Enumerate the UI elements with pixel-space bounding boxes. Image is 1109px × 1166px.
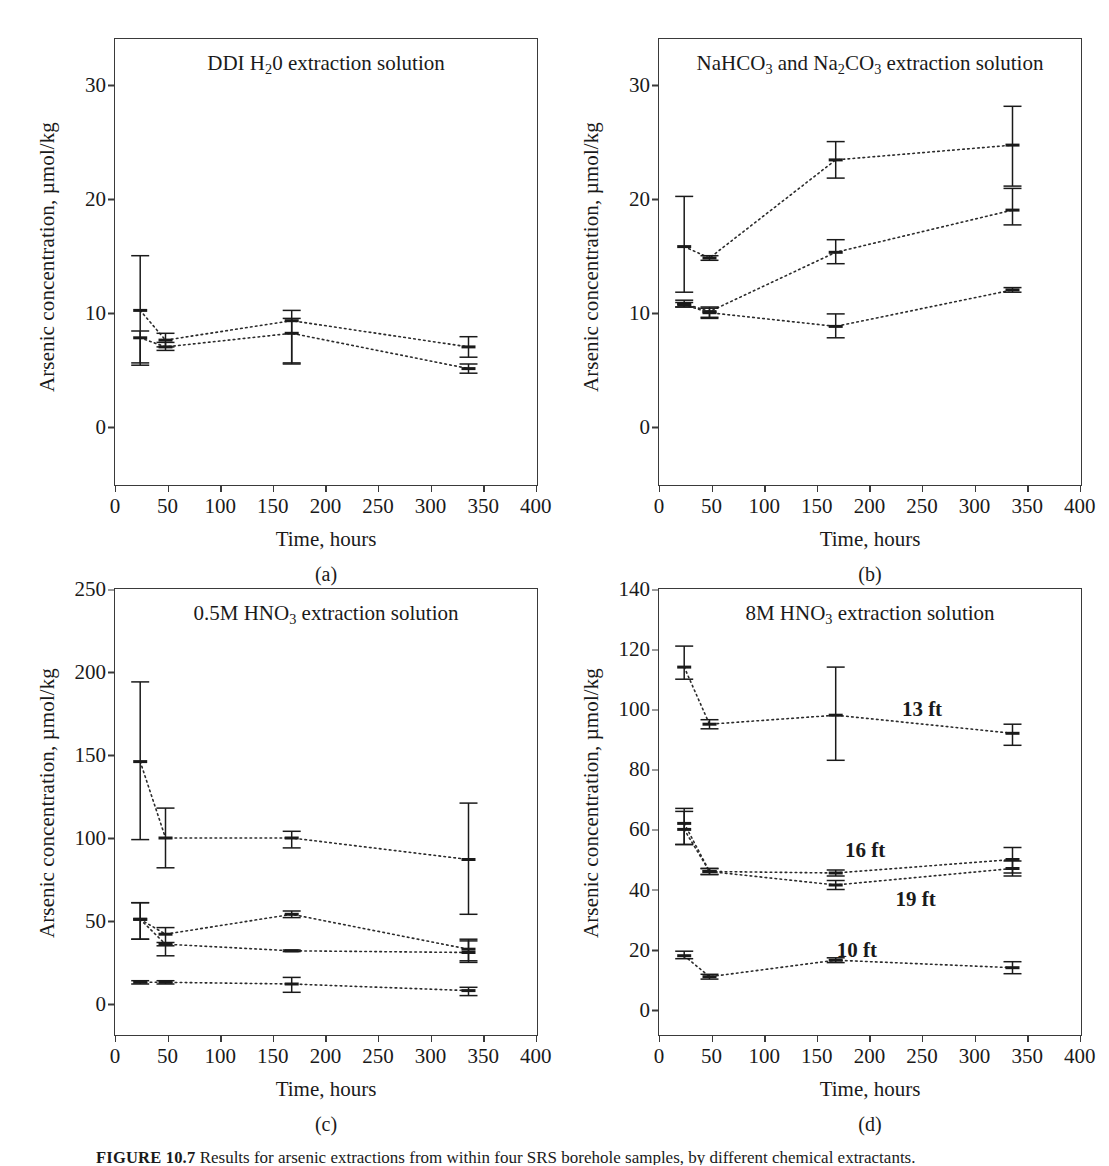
x-tick-b-4: 200 <box>839 496 899 517</box>
x-tick-b-5: 250 <box>892 496 952 517</box>
y-tick-d-4: 80 <box>590 759 650 780</box>
x-axis-label-b: Time, hours <box>659 527 1081 552</box>
x-tick-b-1: 50 <box>682 496 742 517</box>
y-axis-label-c: Arsenic concentration, µmol/kg <box>34 573 60 1033</box>
series-line <box>684 290 1012 327</box>
y-tick-b-0: 0 <box>590 416 650 437</box>
y-tick-d-5: 100 <box>590 699 650 720</box>
x-tick-c-1: 50 <box>138 1046 198 1067</box>
x-tick-d-0: 0 <box>629 1046 689 1067</box>
plot-area-a: DDI H20 extraction solution 0102030 0501… <box>114 38 538 486</box>
x-tick-c-0: 0 <box>85 1046 145 1067</box>
y-tick-d-1: 20 <box>590 939 650 960</box>
plot-area-c: 0.5M HNO3 extraction solution 0501001502… <box>114 588 538 1036</box>
data-layer-c <box>115 589 537 1035</box>
x-tick-a-5: 250 <box>348 496 408 517</box>
series-line <box>140 310 468 347</box>
x-tick-d-5: 250 <box>892 1046 952 1067</box>
data-layer-b <box>659 39 1081 485</box>
x-tick-a-2: 100 <box>190 496 250 517</box>
x-tick-a-0: 0 <box>85 496 145 517</box>
series-a-lower <box>131 318 477 373</box>
y-tick-d-6: 120 <box>590 639 650 660</box>
series-annotation-10-ft: 10 ft <box>837 937 877 962</box>
y-tick-c-4: 200 <box>46 661 106 682</box>
caption-text: Results for arsenic extractions from wit… <box>200 1148 916 1165</box>
series-line <box>684 210 1012 312</box>
figure-arsenic-extractions: Arsenic concentration, µmol/kg DDI H20 e… <box>0 0 1109 1166</box>
series-d-13-ft <box>675 646 1021 760</box>
data-layer-a <box>115 39 537 485</box>
series-c-top <box>131 682 477 914</box>
y-tick-a-3: 30 <box>46 74 106 95</box>
series-line <box>684 667 1012 733</box>
y-tick-c-0: 0 <box>46 993 106 1014</box>
plot-area-d: 8M HNO3 extraction solution 020406080100… <box>658 588 1082 1036</box>
x-tick-a-7: 350 <box>453 496 513 517</box>
y-tick-d-2: 40 <box>590 879 650 900</box>
x-tick-c-6: 300 <box>401 1046 461 1067</box>
x-tick-c-4: 200 <box>295 1046 355 1067</box>
series-svg-a <box>115 39 536 484</box>
y-tick-d-7: 140 <box>590 579 650 600</box>
series-c-bottom <box>131 977 477 995</box>
series-c-third <box>131 903 477 963</box>
data-layer-d: 13 ft16 ft19 ft10 ft <box>659 589 1081 1035</box>
series-b-top <box>675 106 1021 292</box>
x-tick-d-3: 150 <box>787 1046 847 1067</box>
y-tick-c-1: 50 <box>46 910 106 931</box>
y-tick-a-1: 10 <box>46 302 106 323</box>
series-line <box>140 914 468 949</box>
x-tick-b-0: 0 <box>629 496 689 517</box>
x-axis-label-a: Time, hours <box>115 527 537 552</box>
series-svg-d <box>659 589 1080 1034</box>
x-tick-a-6: 300 <box>401 496 461 517</box>
x-axis-label-c: Time, hours <box>115 1077 537 1102</box>
series-line <box>140 982 468 990</box>
y-tick-c-3: 150 <box>46 744 106 765</box>
series-svg-b <box>659 39 1080 484</box>
panel-letter-c: (c) <box>115 1113 537 1136</box>
series-line <box>684 145 1012 258</box>
y-tick-a-0: 0 <box>46 416 106 437</box>
series-line <box>140 919 468 952</box>
x-tick-d-8: 400 <box>1050 1046 1109 1067</box>
x-tick-b-3: 150 <box>787 496 847 517</box>
panel-c: Arsenic concentration, µmol/kg 0.5M HNO3… <box>18 578 548 1126</box>
x-tick-a-1: 50 <box>138 496 198 517</box>
figure-caption: FIGURE 10.7 Results for arsenic extracti… <box>96 1148 1026 1165</box>
y-tick-d-3: 60 <box>590 819 650 840</box>
x-tick-c-3: 150 <box>243 1046 303 1067</box>
x-tick-b-7: 350 <box>997 496 1057 517</box>
series-annotation-13-ft: 13 ft <box>902 697 942 722</box>
panel-d: Arsenic concentration, µmol/kg 8M HNO3 e… <box>562 578 1092 1126</box>
panel-grid: Arsenic concentration, µmol/kg DDI H20 e… <box>0 0 1109 1120</box>
x-tick-b-6: 300 <box>945 496 1005 517</box>
x-tick-c-2: 100 <box>190 1046 250 1067</box>
caption-label: FIGURE 10.7 <box>96 1148 195 1165</box>
panel-letter-d: (d) <box>659 1113 1081 1136</box>
y-tick-c-2: 100 <box>46 827 106 848</box>
series-line <box>140 762 468 860</box>
series-a-upper <box>131 256 477 366</box>
y-tick-b-2: 20 <box>590 188 650 209</box>
x-tick-d-6: 300 <box>945 1046 1005 1067</box>
y-tick-d-0: 0 <box>590 999 650 1020</box>
panel-b: Arsenic concentration, µmol/kg NaHCO3 an… <box>562 22 1092 570</box>
y-tick-a-2: 20 <box>46 188 106 209</box>
x-axis-label-d: Time, hours <box>659 1077 1081 1102</box>
x-tick-d-4: 200 <box>839 1046 899 1067</box>
y-tick-b-3: 30 <box>590 74 650 95</box>
x-tick-b-8: 400 <box>1050 496 1109 517</box>
x-tick-d-7: 350 <box>997 1046 1057 1067</box>
x-tick-c-8: 400 <box>506 1046 566 1067</box>
x-tick-c-5: 250 <box>348 1046 408 1067</box>
x-tick-b-2: 100 <box>734 496 794 517</box>
x-tick-a-4: 200 <box>295 496 355 517</box>
plot-area-b: NaHCO3 and Na2CO3 extraction solution 01… <box>658 38 1082 486</box>
x-tick-c-7: 350 <box>453 1046 513 1067</box>
x-tick-a-8: 400 <box>506 496 566 517</box>
x-tick-d-2: 100 <box>734 1046 794 1067</box>
y-tick-c-5: 250 <box>46 579 106 600</box>
series-annotation-16-ft: 16 ft <box>845 838 885 863</box>
